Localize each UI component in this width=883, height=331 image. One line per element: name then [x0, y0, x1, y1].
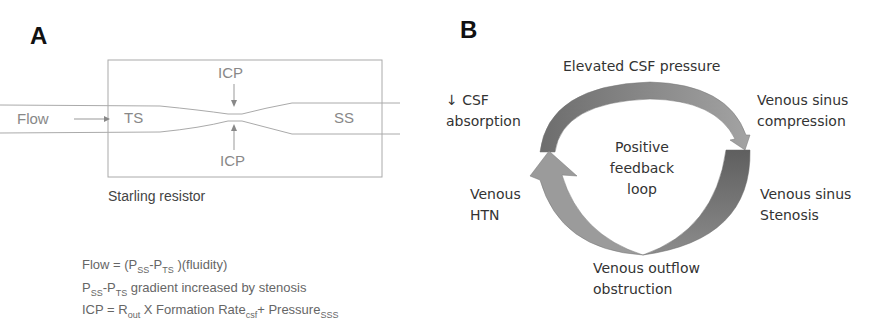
- starling-resistor-caption: Starling resistor: [108, 188, 205, 204]
- ts-label: TS: [124, 109, 143, 126]
- bottom-left-label: VenousHTN: [470, 184, 521, 226]
- top-left-label: ↓ CSFabsorption: [446, 90, 521, 132]
- top-right-label: Venous sinuscompression: [757, 90, 848, 132]
- equation-gradient: PSS-PTS gradient increased by stenosis: [82, 279, 338, 302]
- center-label: Positivefeedbackloop: [600, 137, 684, 200]
- bottom-right-label: Venous sinusStenosis: [760, 184, 851, 226]
- icp-top-label: ICP: [218, 64, 243, 81]
- bottom-label: Venous outflowobstruction: [593, 258, 700, 300]
- panel-b-label: B: [460, 16, 477, 44]
- equation-icp: ICP = Rout X Formation Ratecsf+ Pressure…: [82, 301, 338, 324]
- icp-bottom-label: ICP: [220, 152, 245, 169]
- top-label: Elevated CSF pressure: [563, 56, 720, 77]
- ss-label: SS: [334, 109, 354, 126]
- flow-label: Flow: [17, 110, 49, 127]
- equations: Flow = (PSS-PTS )(fluidity) PSS-PTS grad…: [82, 256, 338, 324]
- equation-flow: Flow = (PSS-PTS )(fluidity): [82, 256, 338, 279]
